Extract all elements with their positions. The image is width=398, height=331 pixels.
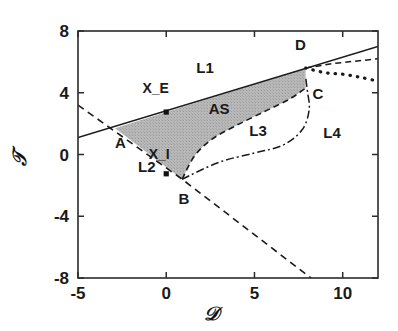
y-tick-label: -8 <box>54 269 69 288</box>
annotation-d: D <box>295 36 306 53</box>
y-tick-label: 0 <box>60 146 69 165</box>
x-tick-label: -5 <box>70 284 85 303</box>
annotation-l4: L4 <box>323 124 341 141</box>
x-tick-label: 10 <box>333 284 352 303</box>
data-point-x-i <box>164 171 169 176</box>
y-tick-label: -4 <box>54 207 70 226</box>
x-tick-label: 0 <box>162 284 171 303</box>
annotation-a: A <box>115 134 126 151</box>
chart-canvas: -50510-8-4048 L1X_EASAL2X_IBL3L4CD 𝒟 𝒯 <box>0 0 398 331</box>
annotation-l3: L3 <box>249 122 267 139</box>
annotation-b: B <box>178 190 189 207</box>
annotation-x-e: X_E <box>142 80 168 96</box>
y-tick-label: 8 <box>60 22 69 41</box>
y-tick-label: 4 <box>60 84 70 103</box>
data-point-x-e <box>164 109 169 114</box>
annotation-x-i: X_I <box>149 146 170 162</box>
x-tick-label: 5 <box>250 284 259 303</box>
annotation-l1: L1 <box>196 59 214 76</box>
phase-diagram-figure: -50510-8-4048 L1X_EASAL2X_IBL3L4CD 𝒟 𝒯 <box>0 0 398 331</box>
annotation-as: AS <box>209 100 230 117</box>
annotation-c: C <box>313 85 324 102</box>
